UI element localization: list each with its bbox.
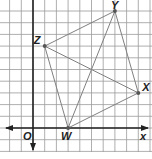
origin-label: O	[23, 130, 32, 142]
label-w: W	[61, 130, 73, 142]
label-x: X	[141, 81, 150, 93]
point-x	[136, 91, 140, 95]
x-axis-label: x	[139, 130, 147, 142]
point-z	[43, 44, 47, 48]
x-axis-left-arrow-icon	[5, 125, 13, 131]
coordinate-plane: WXYZOx	[0, 0, 152, 159]
diagram-svg: WXYZOx	[0, 0, 152, 159]
label-y: Y	[111, 0, 120, 11]
label-z: Z	[33, 34, 42, 46]
y-axis-arrow-icon	[30, 143, 36, 151]
